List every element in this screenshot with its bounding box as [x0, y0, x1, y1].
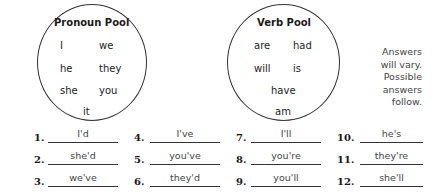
answer-blank[interactable]: she'd	[48, 150, 118, 165]
verb-word: had	[293, 40, 312, 51]
item-number: 3.	[34, 176, 44, 187]
answer-blank[interactable]: they're	[360, 150, 423, 165]
pronoun-word: she	[60, 85, 78, 96]
pronoun-word: it	[83, 106, 90, 117]
verb-word: am	[275, 106, 291, 117]
note-line: Answers	[372, 46, 422, 59]
answer-blank[interactable]: I'd	[48, 128, 118, 143]
verb-word: will	[254, 63, 271, 74]
pronoun-word: you	[99, 85, 117, 96]
pronoun-word: I	[60, 40, 63, 51]
answer-blank[interactable]: you've	[150, 150, 220, 165]
pronoun-pool-title: Pronoun Pool	[54, 17, 129, 28]
verb-word: are	[254, 40, 270, 51]
item-number: 1.	[34, 132, 44, 143]
item-number: 8.	[236, 154, 246, 165]
item-number: 7.	[236, 132, 246, 143]
item-number: 9.	[236, 176, 246, 187]
answer-blank[interactable]: they'd	[150, 172, 220, 187]
answer-blank[interactable]: I'll	[251, 128, 321, 143]
note-line: answers	[372, 84, 422, 97]
item-number: 11.	[337, 154, 354, 165]
item-number: 4.	[134, 132, 144, 143]
pronoun-word: he	[60, 63, 73, 74]
verb-pool-title: Verb Pool	[257, 17, 311, 28]
answers-note: Answers will vary. Possible answers foll…	[372, 46, 422, 109]
answer-blank[interactable]: you're	[251, 150, 321, 165]
pronoun-word: we	[99, 40, 113, 51]
answer-blank[interactable]: he's	[360, 128, 423, 143]
item-number: 5.	[134, 154, 144, 165]
item-number: 12.	[337, 176, 354, 187]
verb-word: is	[293, 63, 301, 74]
item-number: 2.	[34, 154, 44, 165]
answer-blank[interactable]: we've	[48, 172, 118, 187]
verb-word: have	[271, 85, 296, 96]
note-line: follow.	[372, 96, 422, 109]
note-line: will vary.	[372, 59, 422, 72]
item-number: 10.	[337, 132, 354, 143]
note-line: Possible	[372, 71, 422, 84]
answer-blank[interactable]: I've	[150, 128, 220, 143]
answer-blank[interactable]: you'll	[251, 172, 321, 187]
pronoun-word: they	[99, 63, 121, 74]
item-number: 6.	[134, 176, 144, 187]
answer-blank[interactable]: she'll	[360, 172, 423, 187]
